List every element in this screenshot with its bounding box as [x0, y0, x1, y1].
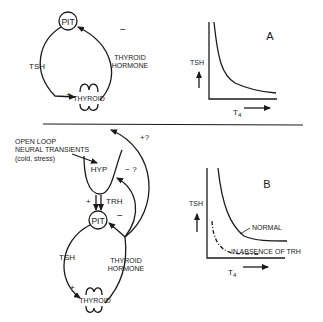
minus-sign: − [120, 24, 126, 35]
feedback-to-pit [109, 223, 125, 237]
feedback-to-hyp [117, 178, 136, 237]
minus-q-label: − ? [125, 165, 137, 174]
hypothalamus-label: HYP [91, 165, 107, 174]
panel-divider [43, 124, 303, 125]
plus-sign: + [66, 90, 71, 100]
graph-b-xlabel: T4 [228, 268, 237, 278]
thyroid-label-b: THYROID [79, 297, 111, 304]
graph-a-xlabel: T4 [233, 108, 242, 118]
open-loop-label-3: (cold, stress) [15, 155, 55, 163]
tsh-arc [40, 27, 75, 97]
trh-label: TRH [106, 197, 123, 206]
hormone-label-1: THYROID [114, 54, 146, 61]
open-loop-label-2: NEURAL TRANSIENTS [15, 146, 90, 153]
graph-b: B TSH NORMAL IN ABSENCE OF TRH T4 [189, 168, 301, 278]
tsh-label-b: TSH [59, 253, 75, 262]
thyroid-label: THYROID [73, 95, 105, 102]
pituitary-label-b: PIT [91, 216, 104, 226]
hormone-label-b-1: THYROID [110, 257, 142, 264]
plus-sign-b: + [70, 283, 75, 292]
graph-b-label: B [263, 178, 270, 190]
hormone-label-2: HORMONE [112, 62, 149, 69]
hormone-arc [78, 27, 112, 100]
hpt-axis-figure: PIT THYROID TSH + − THYROID HORMONE A TS… [0, 0, 323, 322]
panel-a-loop: PIT THYROID TSH + − THYROID HORMONE [29, 12, 149, 110]
normal-label: NORMAL [252, 224, 282, 231]
open-loop-label-1: OPEN LOOP [15, 138, 57, 145]
panel-b-loop: OPEN LOOP NEURAL TRANSIENTS (cold, stres… [15, 130, 150, 312]
hormone-label-b-2: HORMONE [108, 265, 145, 272]
trh-plus: + [86, 197, 91, 206]
absence-label: IN ABSENCE OF TRH [231, 248, 301, 255]
normal-leader [240, 228, 250, 234]
graph-a-label: A [266, 30, 274, 42]
plus-q-label: +? [140, 133, 150, 142]
graph-a-ylabel: TSH [190, 59, 204, 66]
graph-b-ylabel: TSH [189, 200, 203, 207]
graph-a: A TSH T4 [190, 22, 277, 118]
tsh-label: TSH [29, 62, 45, 71]
pituitary-label: PIT [61, 17, 74, 27]
pit-minus: − [117, 210, 123, 221]
